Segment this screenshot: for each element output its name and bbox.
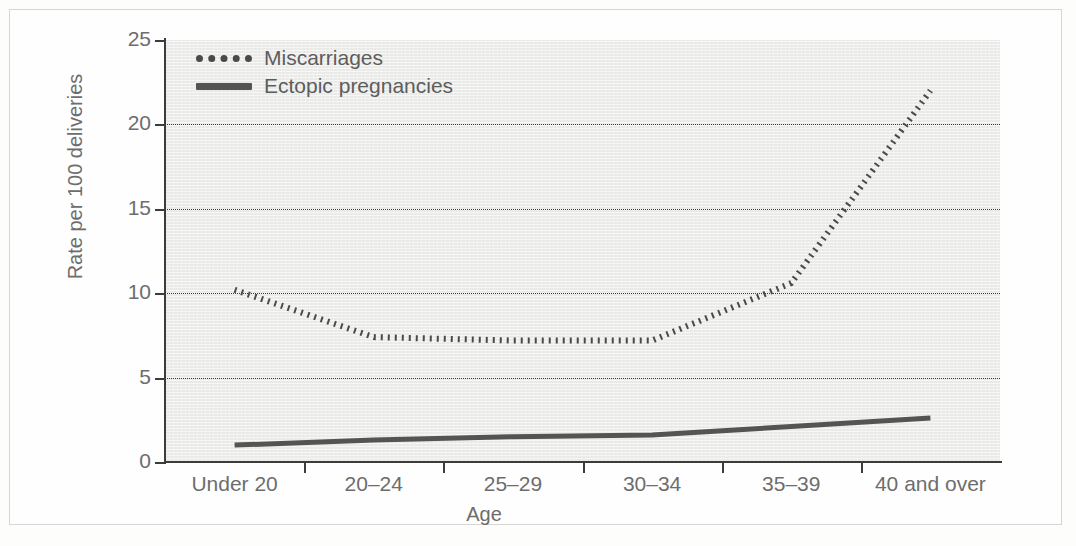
chart-legend: Miscarriages Ectopic pregnancies — [196, 44, 576, 100]
series-layer — [165, 40, 1000, 462]
x-tick-2 — [443, 462, 445, 473]
y-tick-15 — [155, 209, 165, 211]
gridline-10 — [165, 293, 1000, 294]
x-tick-5 — [861, 462, 863, 473]
plot-area: Miscarriages Ectopic pregnancies — [165, 40, 1000, 462]
y-tick-5 — [155, 378, 165, 380]
y-tick-label-25: 25 — [91, 27, 151, 51]
paper-texture-overlay — [165, 40, 1000, 462]
cut-off-caption — [250, 535, 1050, 546]
y-tick-20 — [155, 124, 165, 126]
legend-label-miscarriages: Miscarriages — [264, 46, 383, 70]
y-tick-label-0: 0 — [91, 449, 151, 473]
solid-line-swatch-icon — [196, 83, 252, 90]
x-tick-label-5: 40 and over — [875, 472, 986, 496]
series-line-miscarriages — [235, 91, 931, 341]
y-tick-25 — [155, 40, 165, 42]
x-tick-1 — [304, 462, 306, 473]
legend-item-miscarriages: Miscarriages — [196, 44, 576, 72]
y-tick-label-20: 20 — [91, 111, 151, 135]
gridline-15 — [165, 209, 1000, 210]
x-tick-4 — [722, 462, 724, 473]
y-tick-0 — [155, 462, 165, 464]
x-tick-label-2: 25–29 — [484, 472, 542, 496]
gridline-20 — [165, 124, 1000, 125]
legend-item-ectopic-pregnancies: Ectopic pregnancies — [196, 72, 576, 100]
line-chart-figure: Miscarriages Ectopic pregnancies 0510152… — [0, 0, 1076, 546]
gridline-5 — [165, 378, 1000, 379]
series-line-ectopic-pregnancies — [235, 418, 931, 445]
x-tick-label-4: 35–39 — [762, 472, 820, 496]
y-axis-title: Rate per 100 deliveries — [64, 47, 87, 307]
x-tick-label-1: 20–24 — [345, 472, 403, 496]
x-tick-label-0: Under 20 — [191, 472, 277, 496]
scanned-page: Miscarriages Ectopic pregnancies 0510152… — [0, 0, 1076, 546]
y-tick-label-10: 10 — [91, 280, 151, 304]
legend-label-ectopic-pregnancies: Ectopic pregnancies — [264, 74, 453, 98]
dotted-line-swatch-icon — [196, 55, 252, 62]
y-axis-line — [164, 38, 166, 464]
y-tick-label-15: 15 — [91, 196, 151, 220]
y-tick-label-5: 5 — [91, 365, 151, 389]
x-axis-title: Age — [0, 503, 1022, 526]
x-tick-label-3: 30–34 — [623, 472, 681, 496]
x-tick-3 — [583, 462, 585, 473]
y-tick-10 — [155, 293, 165, 295]
